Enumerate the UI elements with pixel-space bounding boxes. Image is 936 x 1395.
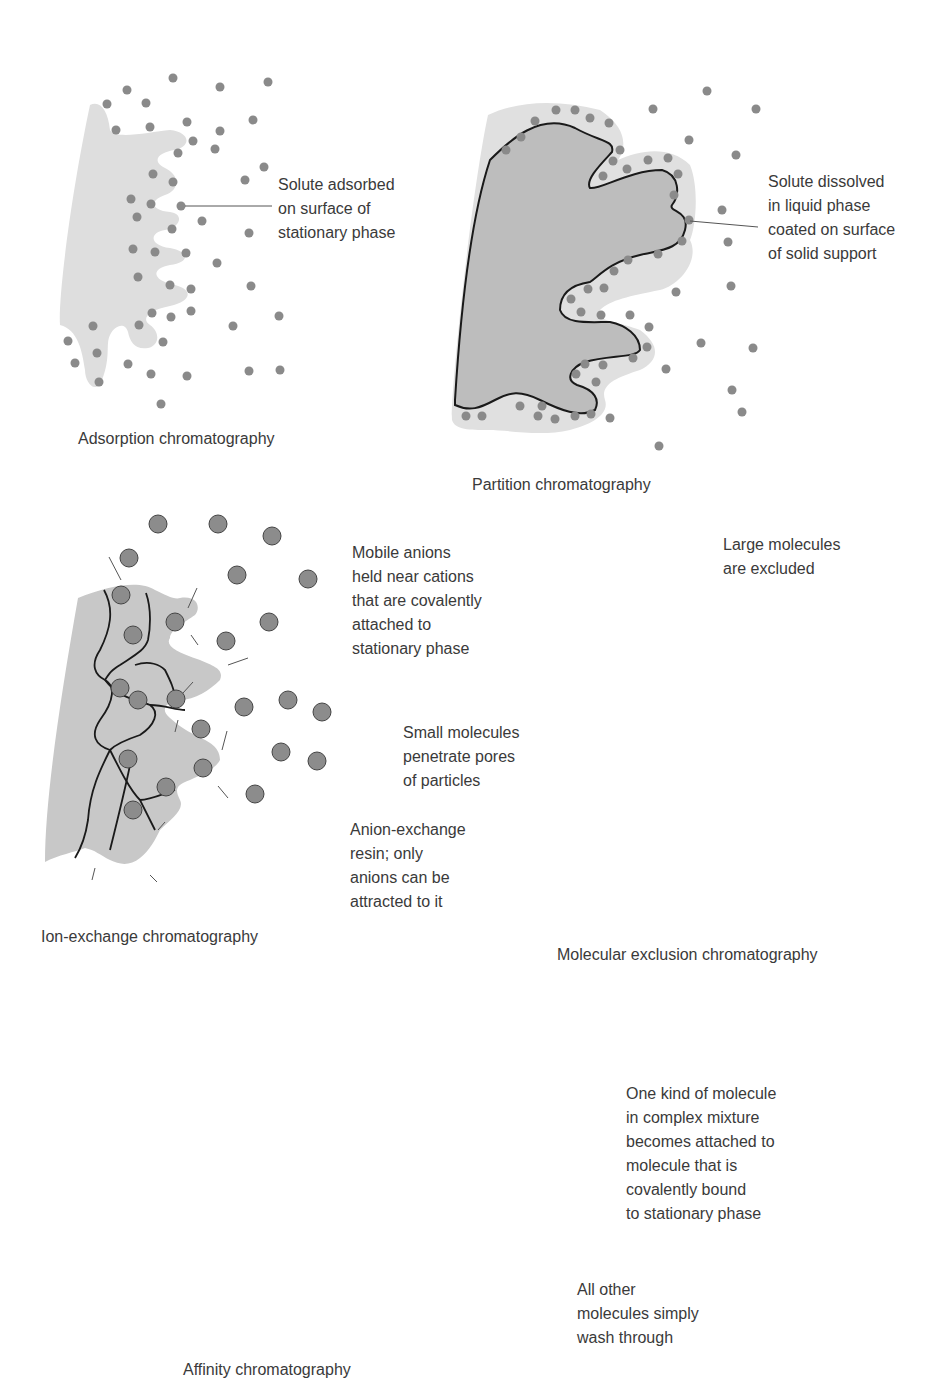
partition-panel — [452, 87, 761, 451]
affinity-caption: Affinity chromatography — [183, 1361, 351, 1379]
small-molecules-callout: Small molecules penetrate pores of parti… — [403, 721, 519, 793]
partition-caption: Partition chromatography — [472, 476, 651, 494]
ion-exchange-caption: Ion-exchange chromatography — [41, 928, 258, 946]
adsorption-stationary-phase — [60, 104, 188, 387]
adsorption-panel — [60, 74, 285, 409]
ion-exchange-callout-bottom: Anion-exchange resin; only anions can be… — [350, 818, 466, 914]
ion-exchange-callout-top: Mobile anions held near cations that are… — [352, 541, 482, 661]
large-molecules-callout: Large molecules are excluded — [723, 533, 840, 581]
adsorption-callout: Solute adsorbed on surface of stationary… — [278, 173, 395, 245]
ion-exchange-panel — [45, 515, 331, 882]
adsorption-caption: Adsorption chromatography — [78, 430, 275, 448]
molecular-exclusion-caption: Molecular exclusion chromatography — [557, 946, 818, 964]
affinity-callout-bottom: All other molecules simply wash through — [577, 1278, 699, 1350]
partition-callout-line — [690, 221, 758, 227]
affinity-callout-top: One kind of molecule in complex mixture … — [626, 1082, 776, 1226]
partition-callout: Solute dissolved in liquid phase coated … — [768, 170, 895, 266]
